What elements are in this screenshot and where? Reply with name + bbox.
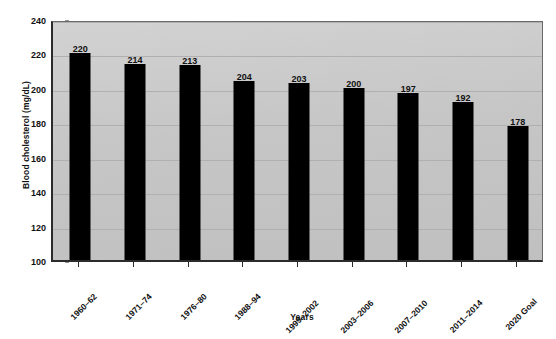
y-tick-label: 140: [18, 188, 46, 198]
x-tick-mark: [188, 262, 189, 267]
y-tick-label: 180: [18, 119, 46, 129]
x-tick-mark: [78, 262, 79, 267]
bar: [234, 81, 255, 260]
x-axis-title: Years: [0, 312, 556, 322]
bar: [289, 83, 310, 260]
x-axis-title-text: Years: [290, 312, 314, 322]
x-tick-mark: [133, 262, 134, 267]
y-tick-label: 240: [18, 16, 46, 26]
bar-value-label: 213: [182, 56, 197, 66]
plot-area: 220214213204203200197192178: [51, 21, 543, 262]
bar: [343, 88, 364, 260]
bar-series: 220214213204203200197192178: [53, 22, 542, 260]
bar-value-label: 197: [401, 84, 416, 94]
y-tick-label: 100: [18, 257, 46, 267]
bar: [507, 126, 528, 260]
figure-caption: [6, 331, 546, 339]
y-tick-label: 120: [18, 223, 46, 233]
x-tick-mark: [242, 262, 243, 267]
bar-value-label: 192: [455, 93, 470, 103]
y-tick-label: 220: [18, 50, 46, 60]
x-tick-mark: [297, 262, 298, 267]
bar-value-label: 178: [510, 117, 525, 127]
cholesterol-bar-chart-figure: Blood cholesterol (mg/dL) 10012014016018…: [0, 0, 556, 339]
x-tick-mark: [406, 262, 407, 267]
bar-value-label: 214: [127, 55, 142, 65]
y-axis-tick-labels: 100120140160180200220240: [18, 21, 46, 262]
x-tick-mark: [352, 262, 353, 267]
bar: [125, 64, 146, 260]
x-tick-mark: [516, 262, 517, 267]
y-tick-label: 160: [18, 154, 46, 164]
bar: [398, 93, 419, 260]
bar-value-label: 200: [346, 79, 361, 89]
bar-value-label: 203: [291, 74, 306, 84]
bar: [453, 102, 474, 260]
bar: [179, 65, 200, 260]
y-tick-label: 200: [18, 85, 46, 95]
bar: [70, 53, 91, 260]
bar-value-label: 220: [73, 44, 88, 54]
bar-value-label: 204: [237, 72, 252, 82]
x-tick-mark: [461, 262, 462, 267]
